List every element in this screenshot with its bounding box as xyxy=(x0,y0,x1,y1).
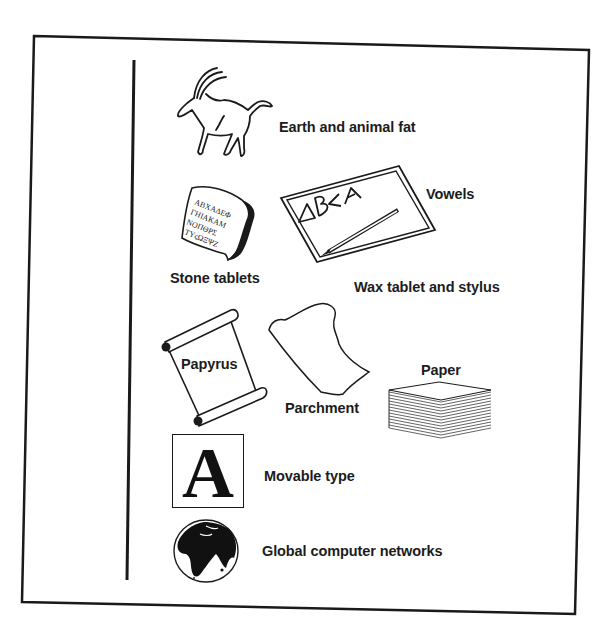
stone-tablet-icon: ABXAΔEΦ ΓHIAKAM NOΠΘPΣ TYςΩΞΨZ xyxy=(178,182,260,262)
letter-a-block-icon: A xyxy=(172,434,244,508)
paper-stack-icon xyxy=(385,380,495,442)
label-papyrus: Papyrus xyxy=(181,356,238,372)
label-vowels: Vowels xyxy=(426,186,474,202)
label-stone-tablets: Stone tablets xyxy=(170,270,260,286)
label-parchment: Parchment xyxy=(285,400,359,416)
label-movable-type: Movable type xyxy=(264,468,355,484)
label-paper: Paper xyxy=(421,362,461,378)
globe-icon xyxy=(172,518,242,584)
label-global-computer-networks: Global computer networks xyxy=(262,543,443,559)
label-wax-tablet-and-stylus: Wax tablet and stylus xyxy=(354,279,500,295)
wax-tablet-icon xyxy=(275,160,440,265)
movable-type-glyph: A xyxy=(182,437,234,509)
timeline-axis xyxy=(127,60,134,580)
parchment-icon xyxy=(265,300,375,400)
ibex-icon xyxy=(170,60,280,160)
label-earth-and-animal-fat: Earth and animal fat xyxy=(279,119,416,135)
